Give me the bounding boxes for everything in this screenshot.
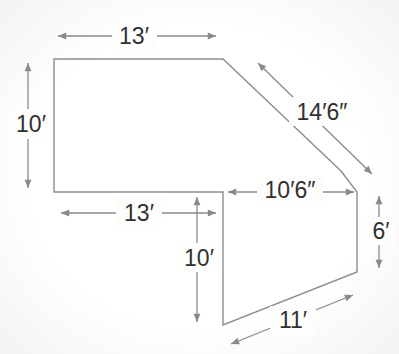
dimension-inner-height: 10′ [177,197,221,322]
dimension-upper-diagonal: 14′6″ [258,63,372,174]
dimension-label-inner-width: 10′6″ [265,177,316,203]
dimension-lower-diagonal: 11′ [231,295,353,344]
dimension-label-right-height: 6′ [372,218,389,244]
floor-plan-canvas: 13′ 10′ 14′6″ 10′6″ 6′ 13′ [0,0,399,354]
dimension-label-lower-left-width: 13′ [124,200,154,226]
dimension-left-height: 10′ [9,63,52,188]
dimension-label-inner-height: 10′ [184,245,214,271]
floor-plan-diagram: 13′ 10′ 14′6″ 10′6″ 6′ 13′ [0,0,399,354]
dimension-label-upper-diagonal: 14′6″ [297,99,348,125]
dimension-top-width: 13′ [58,22,216,50]
dimension-lower-left-width: 13′ [61,199,216,227]
dimension-label-top-width: 13′ [119,23,149,49]
dimension-label-left-height: 10′ [16,111,46,137]
dimension-label-lower-diagonal: 11′ [279,307,307,333]
dimension-right-height: 6′ [366,196,396,268]
dimension-inner-width: 10′6″ [228,176,354,203]
